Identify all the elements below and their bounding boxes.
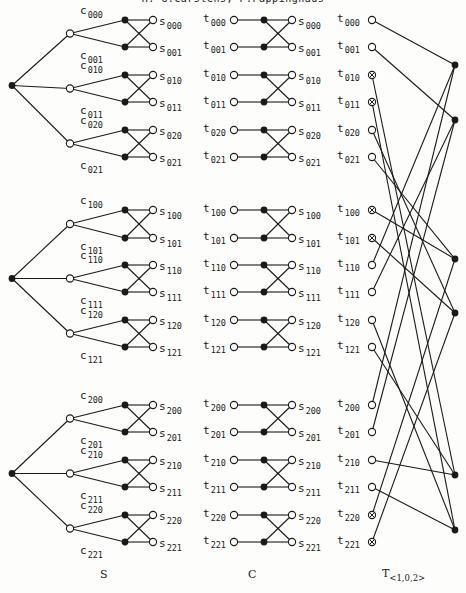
label-subscript: 201 xyxy=(345,430,360,440)
label-subscript: 211 xyxy=(345,485,360,495)
label-subscript: 020 xyxy=(345,128,360,138)
open-node-icon xyxy=(149,234,156,241)
label-letter: t xyxy=(203,39,210,52)
label-subscript: 121 xyxy=(167,348,182,358)
open-node-icon xyxy=(149,206,156,213)
label-letter: c xyxy=(80,499,87,512)
label-letter: s xyxy=(159,315,166,328)
label-letter: s xyxy=(298,455,305,468)
label-letter: c xyxy=(80,349,87,362)
edge xyxy=(70,265,125,279)
label-letter: t xyxy=(203,94,210,107)
open-node-icon xyxy=(288,206,295,213)
edge xyxy=(70,210,125,224)
t-label: t200 xyxy=(337,397,360,413)
label-subscript: 200 xyxy=(167,406,182,416)
edge xyxy=(70,279,125,293)
t-label: t010 xyxy=(337,67,360,83)
label-letter: t xyxy=(203,479,210,492)
s-label: s111 xyxy=(159,287,182,303)
open-node-icon xyxy=(288,343,295,350)
c-label: c021 xyxy=(80,159,103,175)
open-node-icon xyxy=(368,153,375,160)
label-subscript: 001 xyxy=(211,45,226,55)
label-letter: s xyxy=(159,510,166,523)
s-label: s001 xyxy=(159,42,182,58)
label-subscript: 201 xyxy=(167,433,182,443)
label-subscript: 110 xyxy=(345,263,360,273)
open-node-icon xyxy=(149,316,156,323)
label-subscript: 021 xyxy=(88,165,103,175)
label-letter: s xyxy=(159,97,166,110)
open-node-icon xyxy=(288,43,295,50)
label-subscript: 100 xyxy=(345,208,360,218)
label-subscript: 210 xyxy=(306,461,321,471)
filled-node-icon xyxy=(122,99,129,106)
label-subscript: 210 xyxy=(211,458,226,468)
label-letter: s xyxy=(298,260,305,273)
label-subscript: 221 xyxy=(345,540,360,550)
open-node-icon xyxy=(149,511,156,518)
label-letter: t xyxy=(337,312,344,325)
label-letter: t xyxy=(203,452,210,465)
s-label: s101 xyxy=(159,233,182,249)
caption-C: C xyxy=(248,568,256,581)
open-node-icon xyxy=(149,153,156,160)
s-label: s000 xyxy=(159,15,182,31)
open-node-icon xyxy=(230,234,237,241)
open-node-icon xyxy=(288,261,295,268)
s-label: s210 xyxy=(159,455,182,471)
s-label: s010 xyxy=(159,70,182,86)
label-subscript: 220 xyxy=(211,513,226,523)
s-label: s101 xyxy=(298,233,321,249)
label-letter: s xyxy=(159,427,166,440)
label-letter: s xyxy=(298,287,305,300)
filled-node-icon xyxy=(261,344,268,351)
label-subscript: 210 xyxy=(167,461,182,471)
branch-node-icon xyxy=(66,330,73,337)
edge xyxy=(70,460,125,474)
open-node-icon xyxy=(368,456,375,463)
open-node-icon xyxy=(230,538,237,545)
label-subscript: 000 xyxy=(167,21,182,31)
open-node-icon xyxy=(288,401,295,408)
open-node-icon xyxy=(230,511,237,518)
label-letter: s xyxy=(298,315,305,328)
root-branch-edge xyxy=(12,86,70,144)
label-subscript: 011 xyxy=(167,103,182,113)
open-node-icon xyxy=(230,71,237,78)
t-label: t120 xyxy=(337,312,360,328)
filled-node-icon xyxy=(122,127,129,134)
label-subscript: 010 xyxy=(211,73,226,83)
label-letter: t xyxy=(337,230,344,243)
s-label: s121 xyxy=(298,342,321,358)
label-subscript: 011 xyxy=(211,100,226,110)
label-letter: t xyxy=(337,534,344,547)
s-label: s200 xyxy=(298,400,321,416)
t-label: t000 xyxy=(203,12,226,28)
s-label: s021 xyxy=(298,152,321,168)
open-node-icon xyxy=(230,316,237,323)
label-letter: s xyxy=(159,152,166,165)
label-subscript: 200 xyxy=(88,395,103,405)
label-subscript: 100 xyxy=(167,211,182,221)
open-node-icon xyxy=(368,483,375,490)
caption-T-subscript: <1,0,2> xyxy=(389,573,425,583)
s-label: s110 xyxy=(298,260,321,276)
label-letter: c xyxy=(80,389,87,402)
s-label: s220 xyxy=(298,510,321,526)
label-letter: s xyxy=(159,70,166,83)
c-label: c100 xyxy=(80,194,103,210)
label-subscript: 111 xyxy=(345,290,360,300)
filled-node-icon xyxy=(261,289,268,296)
label-subscript: 100 xyxy=(211,208,226,218)
s-label: s201 xyxy=(159,427,182,443)
crossed-node-icon xyxy=(368,98,375,105)
s-label: s100 xyxy=(159,205,182,221)
open-node-icon xyxy=(288,288,295,295)
label-letter: t xyxy=(203,67,210,80)
label-letter: s xyxy=(298,152,305,165)
s-label: s221 xyxy=(159,537,182,553)
label-subscript: 121 xyxy=(345,345,360,355)
target-node-icon xyxy=(452,310,459,317)
